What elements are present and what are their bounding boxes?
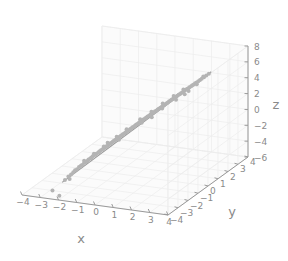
y-tick-label: 1	[220, 179, 226, 189]
data-point	[195, 82, 199, 86]
y-tick-label: 2	[230, 172, 236, 182]
data-point	[138, 117, 142, 121]
data-point	[183, 92, 187, 96]
z-axis-label: z	[273, 97, 280, 112]
data-point	[149, 110, 153, 114]
x-tick-label: 1	[111, 210, 117, 220]
x-tick-label: 2	[130, 212, 136, 222]
data-point	[50, 189, 54, 193]
data-point	[117, 138, 121, 142]
z-tick-label: 4	[254, 73, 260, 83]
data-point	[68, 177, 72, 181]
data-point	[125, 127, 129, 131]
z-tick-label: 0	[254, 105, 260, 115]
x-tick-label: −1	[71, 205, 84, 215]
z-tick-label: −4	[254, 137, 268, 147]
x-tick-label: 0	[93, 207, 99, 217]
data-point	[106, 141, 110, 145]
data-point	[174, 98, 178, 102]
data-point	[201, 74, 205, 78]
z-tick-label: 8	[254, 42, 260, 52]
y-tick-label: 3	[240, 164, 246, 174]
z-tick-label: 2	[254, 89, 260, 99]
data-point	[102, 145, 106, 149]
scatter3d-plot: −4−3−2−101234−4−3−2−101234−6−4−202468 xy…	[0, 0, 288, 261]
data-point	[161, 101, 165, 105]
data-point	[82, 159, 86, 163]
x-tick-label: −3	[35, 200, 48, 210]
z-tick-label: 6	[254, 57, 260, 67]
data-point	[92, 152, 96, 156]
data-point	[187, 89, 191, 93]
x-axis-label: x	[77, 231, 85, 246]
data-point	[181, 87, 185, 91]
z-tick-label: −2	[254, 121, 267, 131]
x-tick-label: 3	[148, 215, 154, 225]
figure-canvas: −4−3−2−101234−4−3−2−101234−6−4−202468 xy…	[0, 0, 288, 261]
z-tick-label: −6	[254, 153, 268, 163]
data-point	[63, 178, 67, 182]
y-tick-label: 0	[210, 186, 216, 196]
data-point	[207, 72, 211, 76]
x-tick-label: −4	[16, 197, 30, 207]
data-point	[140, 121, 144, 125]
data-point	[150, 115, 154, 119]
data-point	[172, 94, 176, 98]
data-point	[160, 107, 164, 111]
y-axis-label: y	[228, 204, 236, 219]
data-point	[57, 194, 61, 198]
x-tick-label: −2	[53, 202, 66, 212]
